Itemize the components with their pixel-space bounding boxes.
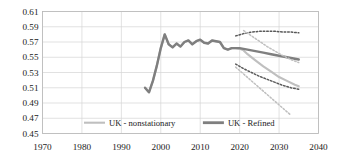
y-axis-tick-labels: 0.450.470.490.510.530.550.570.590.61 [22,7,38,139]
legend-label-0: UK - nonstationary [109,118,176,128]
x-tick-label: 2030 [270,142,289,152]
y-tick-label: 0.51 [22,83,38,93]
x-tick-label: 2020 [230,142,249,152]
y-tick-label: 0.55 [22,52,38,62]
x-tick-label: 1970 [33,142,52,152]
y-tick-label: 0.47 [22,113,38,123]
line-chart: 0.450.470.490.510.530.550.570.590.61 197… [0,0,338,165]
x-axis-tick-labels: 19701980199020002010202020302040 [33,142,328,152]
y-tick-label: 0.45 [22,129,38,139]
y-tick-label: 0.49 [22,98,38,108]
x-tick-label: 1980 [73,142,92,152]
x-tick-label: 2000 [152,142,171,152]
y-tick-label: 0.61 [22,7,38,17]
y-tick-label: 0.53 [22,68,38,78]
x-tick-label: 2040 [309,142,328,152]
x-tick-label: 1990 [112,142,131,152]
x-tick-label: 2010 [191,142,210,152]
y-tick-label: 0.57 [22,37,38,47]
legend-label-1: UK - Refined [228,118,275,128]
chart-container: 0.450.470.490.510.530.550.570.590.61 197… [0,0,338,165]
y-tick-label: 0.59 [22,22,38,32]
